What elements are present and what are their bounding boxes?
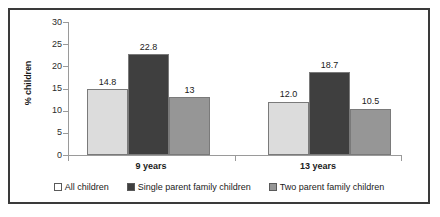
legend-swatch-all-children [54,183,62,191]
x-category-label-9years: 9 years [119,161,183,172]
y-tick-0: 0 [36,151,62,160]
legend-item-single-parent: Single parent family children [127,182,251,192]
bar-value-13years-two-parent: 10.5 [348,96,393,106]
bar-9years-single-parent [128,54,169,155]
x-category-label-13years: 13 years [286,161,350,172]
y-tick-15: 15 [36,84,62,93]
x-tick-middle [235,156,236,161]
legend-item-two-parent: Two parent family children [269,182,385,192]
bar-9years-all-children [87,89,128,155]
y-tick-mark-5 [63,133,68,134]
y-axis-title: % children [23,43,33,123]
bar-value-13years-single-parent: 18.7 [307,60,352,70]
legend-label-single-parent: Single parent family children [138,182,251,192]
chart-screenshot: % children 0 5 10 15 20 25 30 [0,0,440,217]
bar-value-9years-two-parent: 13 [167,85,212,95]
y-tick-5: 5 [36,128,62,137]
bar-value-9years-single-parent: 22.8 [126,42,171,52]
y-tick-mark-30 [63,22,68,23]
y-tick-30: 30 [36,18,62,27]
bar-13years-single-parent [309,72,350,155]
x-tick-end [401,156,402,161]
y-tick-mark-25 [63,44,68,45]
bar-value-13years-all-children: 12.0 [266,89,311,99]
legend-swatch-two-parent [269,183,277,191]
y-tick-mark-15 [63,89,68,90]
y-tick-mark-10 [63,111,68,112]
legend-swatch-single-parent [127,183,135,191]
y-tick-20: 20 [36,62,62,71]
y-tick-mark-20 [63,66,68,67]
legend-label-all-children: All children [65,182,109,192]
bar-9years-two-parent [169,97,210,155]
bar-13years-two-parent [350,109,391,156]
x-tick-start [68,156,69,161]
bar-13years-all-children [268,102,309,155]
y-axis-line [68,22,69,156]
y-tick-25: 25 [36,40,62,49]
y-tick-10: 10 [36,106,62,115]
legend-label-two-parent: Two parent family children [280,182,385,192]
chart-legend: All children Single parent family childr… [8,182,430,192]
legend-item-all-children: All children [54,182,109,192]
bar-value-9years-all-children: 14.8 [85,77,130,87]
